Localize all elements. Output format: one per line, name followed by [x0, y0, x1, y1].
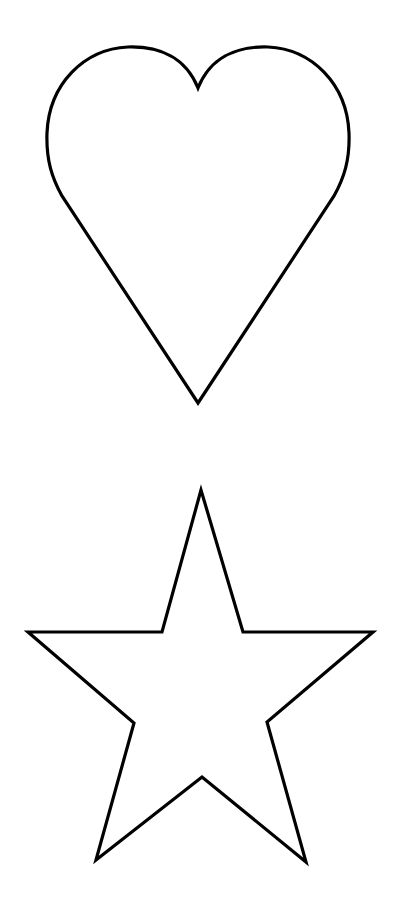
- coloring-page-canvas: Shapes Outline Coloring Page Black line-…: [0, 0, 402, 917]
- shapes-svg: [0, 0, 402, 917]
- shapes-layer: [0, 0, 402, 917]
